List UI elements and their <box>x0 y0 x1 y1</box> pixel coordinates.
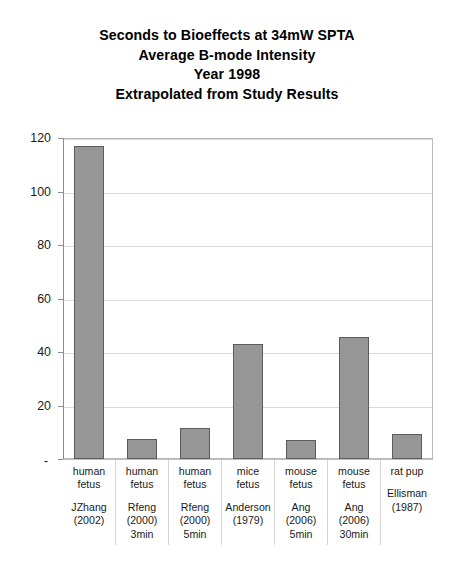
category-name-line: mouse <box>338 465 370 478</box>
category-name: mousefetus <box>285 465 317 492</box>
category-citation-line: Ellisman <box>387 487 427 500</box>
category-name-line: fetus <box>179 478 211 491</box>
bars-layer <box>63 138 433 459</box>
x-axis-category-cell: mousefetusAng(2006)30min <box>328 460 381 545</box>
category-citation-line: 5min <box>286 528 317 541</box>
bar[interactable] <box>127 439 157 459</box>
y-axis-label-120: 120 <box>30 132 51 144</box>
category-name-line: fetus <box>126 478 158 491</box>
category-citation: Ang(2006)30min <box>339 501 370 541</box>
category-name: humanfetus <box>73 465 105 492</box>
category-name-line: fetus <box>338 478 370 491</box>
y-axis-label-20: 20 <box>37 400 51 412</box>
bar[interactable] <box>74 146 104 459</box>
category-citation-line: (2000) <box>180 514 211 527</box>
category-citation: Rfeng(2000)3min <box>127 501 158 541</box>
chart-title-line-3: Year 1998 <box>0 65 454 85</box>
chart-title-line-2: Average B-mode Intensity <box>0 46 454 66</box>
bar-slot <box>327 138 380 459</box>
bar[interactable] <box>180 428 210 459</box>
category-name: mousefetus <box>338 465 370 492</box>
category-name: micefetus <box>237 465 260 492</box>
category-name-line: fetus <box>237 478 260 491</box>
category-citation-line: (2006) <box>286 514 317 527</box>
category-citation-line: (1979) <box>225 514 270 527</box>
bar-slot <box>116 138 169 459</box>
category-citation-line: JZhang <box>71 501 106 514</box>
category-name: humanfetus <box>179 465 211 492</box>
bar[interactable] <box>286 440 316 459</box>
category-citation-line: (2006) <box>339 514 370 527</box>
category-citation-line: Ang <box>339 501 370 514</box>
category-citation-line: Rfeng <box>127 501 158 514</box>
category-citation-line: 30min <box>339 528 370 541</box>
x-axis-category-table: humanfetusJZhang(2002)humanfetusRfeng(20… <box>63 459 433 545</box>
category-citation-line: (2002) <box>71 514 106 527</box>
category-name-line: fetus <box>285 478 317 491</box>
category-citation-line: Anderson <box>225 501 270 514</box>
bar[interactable] <box>392 434 422 459</box>
category-name-line: mice <box>237 465 260 478</box>
category-citation-line: (2000) <box>127 514 158 527</box>
bar-slot <box>380 138 433 459</box>
bar-slot <box>274 138 327 459</box>
chart-title-line-4: Extrapolated from Study Results <box>0 85 454 105</box>
category-name-line: fetus <box>73 478 105 491</box>
category-citation: JZhang(2002) <box>71 501 106 528</box>
x-axis-category-cell: humanfetusRfeng(2000)5min <box>169 460 222 545</box>
category-citation: Anderson(1979) <box>225 501 270 528</box>
category-name-line: mouse <box>285 465 317 478</box>
bar[interactable] <box>233 344 263 459</box>
bar-slot <box>222 138 275 459</box>
y-axis-label-40: 40 <box>37 346 51 358</box>
category-citation-line: 5min <box>180 528 211 541</box>
y-axis-labels: 20406080100120 <box>0 0 63 572</box>
category-citation: Ellisman(1987) <box>387 487 427 514</box>
x-axis-category-cell: rat pupEllisman(1987) <box>381 460 433 545</box>
x-axis-category-cell: micefetusAnderson(1979) <box>222 460 275 545</box>
x-axis-category-cell: humanfetusJZhang(2002) <box>63 460 116 545</box>
category-name: rat pup <box>391 465 424 478</box>
category-name-line: human <box>179 465 211 478</box>
category-name-line: rat pup <box>391 465 424 478</box>
category-name: humanfetus <box>126 465 158 492</box>
y-axis-label-100: 100 <box>30 186 51 198</box>
x-axis-category-cell: mousefetusAng(2006)5min <box>275 460 328 545</box>
category-citation-line: Rfeng <box>180 501 211 514</box>
bar-slot <box>169 138 222 459</box>
category-citation-line: Ang <box>286 501 317 514</box>
y-axis-label-60: 60 <box>37 293 51 305</box>
bar[interactable] <box>339 337 369 459</box>
bar-slot <box>63 138 116 459</box>
y-axis-label-80: 80 <box>37 239 51 251</box>
category-citation-line: (1987) <box>387 501 427 514</box>
category-name-line: human <box>126 465 158 478</box>
category-citation: Ang(2006)5min <box>286 501 317 541</box>
category-citation: Rfeng(2000)5min <box>180 501 211 541</box>
category-citation-line: 3min <box>127 528 158 541</box>
chart-title: Seconds to Bioeffects at 34mW SPTA Avera… <box>0 26 454 104</box>
y-axis-zero-label: - <box>44 455 48 467</box>
bar-chart: Seconds to Bioeffects at 34mW SPTA Avera… <box>0 0 454 572</box>
chart-title-line-1: Seconds to Bioeffects at 34mW SPTA <box>0 26 454 46</box>
x-axis-category-cell: humanfetusRfeng(2000)3min <box>116 460 169 545</box>
category-name-line: human <box>73 465 105 478</box>
